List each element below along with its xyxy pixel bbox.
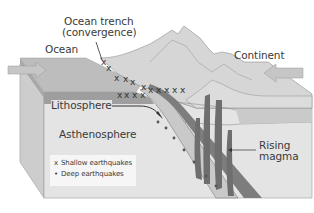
svg-text:x: x bbox=[132, 90, 138, 100]
subduction-diagram: xxxx xxxx xxx xxxx bbox=[0, 0, 314, 213]
svg-text:x: x bbox=[130, 77, 136, 87]
label-continent: Continent bbox=[234, 50, 284, 61]
label-asthenosphere: Asthenosphere bbox=[59, 129, 136, 140]
svg-text:x: x bbox=[106, 63, 112, 73]
svg-text:x: x bbox=[140, 90, 146, 100]
svg-text:x: x bbox=[124, 90, 130, 100]
svg-text:x: x bbox=[123, 74, 129, 84]
label-lithosphere: Lithosphere bbox=[51, 100, 112, 111]
label-magma: magma bbox=[259, 151, 299, 162]
svg-text:x: x bbox=[114, 73, 120, 83]
legend-deep-symbol: • bbox=[54, 169, 58, 179]
continent-lithosphere-band bbox=[236, 110, 312, 124]
svg-text:x: x bbox=[156, 85, 162, 95]
svg-text:x: x bbox=[117, 90, 123, 100]
legend-deep-label: Deep earthquakes bbox=[61, 169, 124, 179]
svg-text:x: x bbox=[164, 85, 170, 95]
svg-text:x: x bbox=[172, 85, 178, 95]
svg-text:x: x bbox=[180, 85, 186, 95]
legend-shallow-label: Shallow earthquakes bbox=[61, 158, 132, 168]
svg-text:x: x bbox=[148, 85, 154, 95]
legend-shallow-symbol: x bbox=[54, 158, 58, 168]
label-convergence: (convergence) bbox=[62, 27, 137, 38]
label-ocean: Ocean bbox=[45, 44, 78, 55]
